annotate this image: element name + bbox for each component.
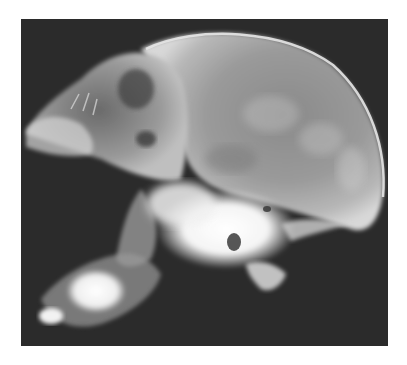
facial-region — [26, 53, 188, 181]
mastoid — [246, 262, 286, 290]
skull-xray-graphic — [21, 19, 388, 346]
skull-radiograph — [21, 19, 388, 346]
